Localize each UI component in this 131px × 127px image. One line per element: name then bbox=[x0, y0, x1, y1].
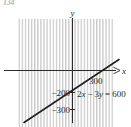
y-tick-label-minus200: −200 bbox=[51, 88, 70, 98]
equation-annotation: 2x−3y=600 bbox=[77, 89, 126, 99]
svg-text:2x−3y=600: 2x−3y=600 bbox=[77, 89, 126, 99]
eq-rhs: 600 bbox=[112, 89, 126, 99]
x-axis-label: x bbox=[121, 66, 126, 76]
y-tick-label-minus300: −300 bbox=[51, 105, 70, 115]
eq-equals: = bbox=[105, 89, 110, 99]
eq-var-y: y bbox=[98, 89, 103, 99]
eq-sign: − bbox=[88, 89, 93, 99]
x-tick-label-300: 300 bbox=[89, 76, 103, 86]
graph-plot: x y 300 −200 −300 2x−3y=600 bbox=[0, 0, 131, 127]
eq-var-x: x bbox=[81, 89, 86, 99]
figure-container: 134 bbox=[0, 0, 131, 127]
y-axis-label: y bbox=[70, 8, 75, 18]
